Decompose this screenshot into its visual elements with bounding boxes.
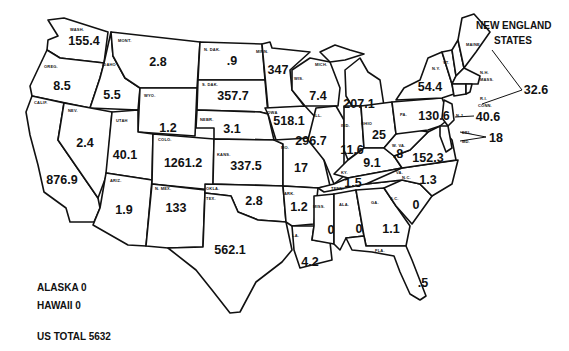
abbr-colorado: COLO. bbox=[158, 137, 172, 142]
us-map bbox=[0, 0, 569, 351]
abbr-oklahoma: OKLA. bbox=[206, 186, 219, 191]
abbr-idaho: IDAHO bbox=[102, 62, 116, 67]
value-tennessee: 1.5 bbox=[344, 176, 361, 190]
abbr-ohio: OHIO bbox=[361, 121, 372, 126]
value-arkansas: 1.2 bbox=[290, 200, 307, 214]
abbr-delaware: DEL. bbox=[462, 130, 472, 135]
abbr-virginia: VA. bbox=[396, 170, 403, 175]
value-nevada: 2.4 bbox=[76, 136, 93, 150]
hawaii-note: HAWAII 0 bbox=[37, 300, 81, 311]
alaska-note: ALASKA 0 bbox=[37, 282, 87, 293]
abbr-arizona: ARIZ. bbox=[110, 178, 121, 183]
value-new-england: 32.6 bbox=[524, 83, 548, 97]
abbr-connecticut: CONN. bbox=[478, 103, 492, 108]
abbr-wisconsin: WIS. bbox=[294, 76, 303, 81]
abbr-pennsylvania: PA. bbox=[400, 112, 407, 117]
abbr-rhodeisland: R.I. bbox=[480, 96, 487, 101]
value-louisiana: 4.2 bbox=[301, 255, 318, 269]
abbr-iowa: IOWA bbox=[266, 110, 277, 115]
value-southcarolina: 0 bbox=[413, 198, 420, 212]
value-newmexico: 133 bbox=[166, 201, 187, 215]
value-colorado: 1261.2 bbox=[164, 156, 202, 170]
value-newyork: 54.4 bbox=[418, 80, 442, 94]
value-texas: 562.1 bbox=[214, 243, 245, 257]
abbr-kentucky: KY. bbox=[341, 170, 348, 175]
abbr-oregon: OREG. bbox=[44, 64, 58, 69]
abbr-utah: UTAH bbox=[116, 118, 128, 123]
abbr-maryland: MD. bbox=[462, 139, 470, 144]
hawaii-label: HAWAII bbox=[37, 300, 73, 311]
value-kansas: 337.5 bbox=[230, 159, 261, 173]
value-wisconsin: 7.4 bbox=[309, 89, 326, 103]
abbr-tennessee: TENN. bbox=[331, 186, 344, 191]
abbr-montana: MONT. bbox=[118, 38, 131, 43]
us-total-note: US TOTAL 5632 bbox=[37, 331, 111, 342]
abbr-southdakota: S. DAK. bbox=[202, 82, 218, 87]
value-nebraska: 3.1 bbox=[223, 122, 240, 136]
state-newmexico bbox=[146, 184, 205, 248]
title-line-1: NEW ENGLAND bbox=[476, 18, 552, 33]
value-wyoming: 1.2 bbox=[159, 121, 176, 135]
abbr-newhampshire: N.H. bbox=[480, 70, 489, 75]
abbr-southcarolina: S.C. bbox=[390, 196, 399, 201]
abbr-westvirginia: W. VA. bbox=[392, 143, 405, 148]
value-idaho: 5.5 bbox=[103, 88, 120, 102]
abbr-nevada: NEV. bbox=[68, 108, 78, 113]
abbr-louisiana: LA. bbox=[292, 233, 299, 238]
abbr-maine: MAINE bbox=[466, 42, 480, 47]
value-ohio: 25 bbox=[372, 128, 386, 142]
value-virginia: 152.3 bbox=[412, 151, 443, 165]
abbr-newmexico: N. MEX. bbox=[155, 186, 171, 191]
value-northcarolina: 1.3 bbox=[419, 173, 436, 187]
abbr-indiana: IND. bbox=[341, 123, 350, 128]
abbr-missouri: MO. bbox=[281, 145, 289, 150]
abbr-wyoming: WYO. bbox=[144, 93, 155, 98]
value-mississippi: 0 bbox=[328, 223, 335, 237]
abbr-northdakota: N. DAK. bbox=[204, 47, 220, 52]
abbr-kansas: KANS. bbox=[217, 152, 230, 157]
value-newjersey: 40.6 bbox=[476, 110, 500, 124]
state-connecticut bbox=[452, 84, 466, 96]
value-iowa: 518.1 bbox=[273, 114, 304, 128]
abbr-michigan: MICH. bbox=[315, 62, 327, 67]
value-arizona: 1.9 bbox=[115, 203, 132, 217]
value-florida: .5 bbox=[418, 276, 428, 290]
abbr-minnesota: MINN. bbox=[256, 49, 268, 54]
abbr-nebraska: NEBR. bbox=[200, 117, 213, 122]
abbr-florida: FLA. bbox=[375, 248, 385, 253]
value-pennsylvania: 130.6 bbox=[418, 109, 449, 123]
abbr-georgia: GA. bbox=[371, 200, 379, 205]
abbr-massachusetts: MASS. bbox=[480, 77, 494, 82]
value-missouri: 17 bbox=[294, 161, 308, 175]
abbr-washington: WASH. bbox=[70, 27, 84, 32]
value-michigan: 207.1 bbox=[343, 97, 374, 111]
abbr-mississippi: MISS. bbox=[313, 204, 325, 209]
abbr-alabama: ALA. bbox=[339, 202, 349, 207]
abbr-california: CALIF. bbox=[34, 100, 48, 105]
alaska-value: 0 bbox=[81, 282, 87, 293]
value-kentucky: 9.1 bbox=[363, 156, 380, 170]
state-rhodeisland bbox=[466, 84, 472, 94]
value-indiana: 11.6 bbox=[340, 143, 364, 157]
hawaii-value: 0 bbox=[75, 300, 81, 311]
abbr-newjersey: N.J. bbox=[456, 113, 464, 118]
alaska-label: ALASKA bbox=[37, 282, 78, 293]
value-alabama: 0 bbox=[356, 222, 363, 236]
value-illinois: 296.7 bbox=[295, 134, 326, 148]
value-oklahoma: 2.8 bbox=[245, 194, 262, 208]
value-montana: 2.8 bbox=[149, 55, 166, 69]
value-utah: 40.1 bbox=[113, 148, 137, 162]
value-northdakota: .9 bbox=[227, 54, 237, 68]
value-westvirginia: .8 bbox=[393, 147, 403, 161]
new-england-title: NEW ENGLAND STATES bbox=[476, 18, 552, 48]
value-southdakota: 357.7 bbox=[217, 89, 248, 103]
value-delaware-maryland: 18 bbox=[489, 131, 503, 145]
total-label: US TOTAL bbox=[37, 331, 86, 342]
abbr-illinois: ILL. bbox=[314, 113, 322, 118]
value-california: 876.9 bbox=[46, 173, 77, 187]
value-minnesota: 347 bbox=[268, 63, 289, 77]
abbr-vermont: VT. bbox=[443, 60, 449, 65]
value-oregon: 8.5 bbox=[53, 79, 70, 93]
abbr-texas: TEX. bbox=[206, 196, 216, 201]
value-georgia: 1.1 bbox=[382, 222, 399, 236]
